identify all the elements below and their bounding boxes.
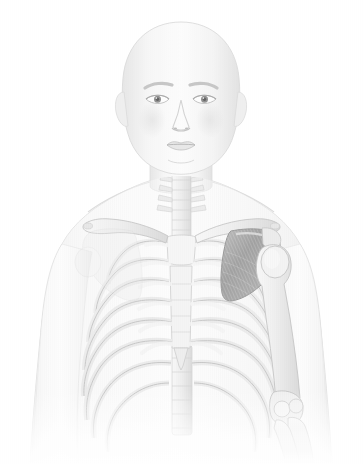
anatomy-illustration <box>0 0 363 464</box>
illustration-canvas: Grayscale anatomical illustration of a b… <box>0 0 363 464</box>
global-scanlines <box>0 0 363 464</box>
